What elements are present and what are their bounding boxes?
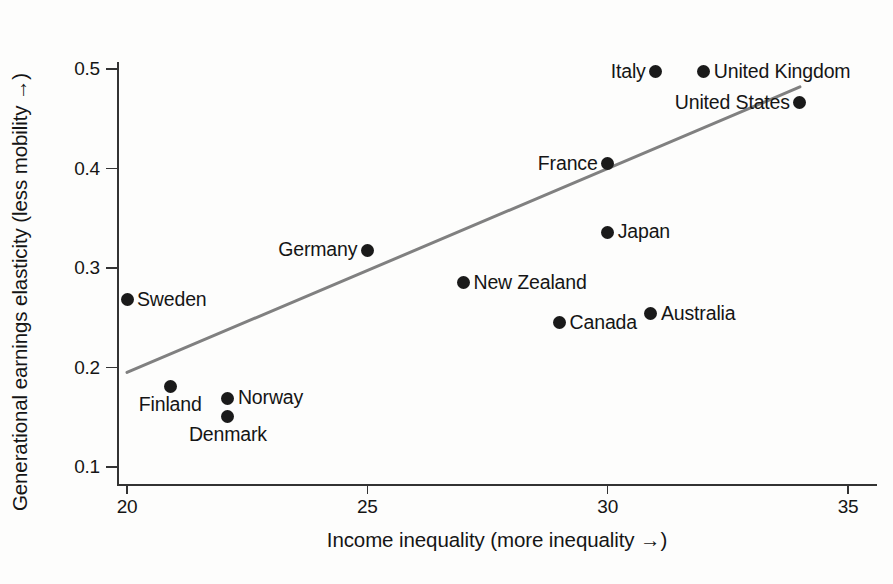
data-point-label: Finland [139, 395, 202, 415]
data-point-label: Canada [570, 313, 637, 333]
x-tick-mark [126, 484, 128, 494]
y-tick-mark [106, 466, 117, 468]
data-point-label: Italy [611, 62, 646, 82]
scatter-chart-figure: Generational earnings elasticity (less m… [0, 0, 893, 584]
y-tick-mark [106, 168, 117, 170]
data-point-marker[interactable] [164, 380, 177, 393]
data-point-label: Australia [661, 304, 736, 324]
data-point-label: United States [675, 93, 790, 113]
data-point-label: Germany [278, 240, 357, 260]
data-point-label: Norway [238, 389, 303, 409]
y-tick-mark [106, 267, 117, 269]
y-tick-mark [106, 367, 117, 369]
data-point-marker[interactable] [361, 244, 374, 257]
x-tick-label: 30 [578, 496, 638, 518]
data-point-label: Japan [618, 222, 670, 242]
y-tick-label: 0.2 [40, 357, 100, 379]
y-tick-label: 0.1 [40, 456, 100, 478]
data-point-label: Denmark [189, 425, 267, 445]
data-point-label: United Kingdom [714, 62, 851, 82]
y-tick-label: 0.4 [40, 158, 100, 180]
x-tick-label: 35 [818, 496, 878, 518]
x-tick-label: 25 [337, 496, 397, 518]
x-tick-mark [847, 484, 849, 494]
x-tick-mark [367, 484, 369, 494]
x-tick-mark [607, 484, 609, 494]
data-point-marker[interactable] [121, 293, 134, 306]
plot-area: 0.10.20.30.40.520253035 SwedenFinlandNor… [0, 0, 893, 584]
data-point-label: New Zealand [473, 273, 586, 293]
data-point-label: Sweden [137, 290, 207, 310]
data-point-label: France [538, 154, 598, 174]
y-tick-mark [106, 68, 117, 70]
x-tick-label: 20 [97, 496, 157, 518]
y-tick-label: 0.5 [40, 58, 100, 80]
data-point-marker[interactable] [601, 226, 614, 239]
y-tick-label: 0.3 [40, 257, 100, 279]
